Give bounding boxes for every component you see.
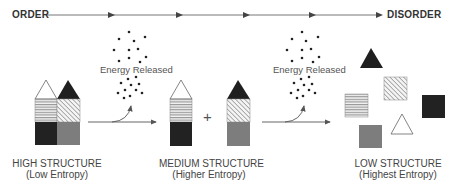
- axis-arrow-icon: [176, 12, 183, 18]
- striped-block: [170, 99, 192, 122]
- stage-title: LOW STRUCTURE: [348, 158, 448, 169]
- white-triangle-icon: [170, 80, 192, 99]
- low-structure-pieces: [345, 48, 445, 148]
- stage-subtitle: (Highest Entropy): [348, 169, 448, 180]
- white-triangle-icon: [35, 80, 57, 99]
- dark-square: [422, 95, 445, 118]
- stage-low-structure: LOW STRUCTURE (Highest Entropy): [348, 158, 448, 180]
- striped-block: [35, 99, 57, 122]
- stage-high-structure: HIGH STRUCTURE (Low Entropy): [7, 158, 107, 180]
- transition-arrow-1: [88, 106, 156, 122]
- high-structure-shape: [35, 80, 80, 145]
- hatched-block: [57, 99, 80, 122]
- order-disorder-axis: [47, 12, 383, 18]
- medium-structure-left-pencil: [170, 80, 192, 146]
- axis-arrow-icon: [309, 12, 316, 18]
- disorder-label: DISORDER: [387, 9, 441, 20]
- transition-arrow-2: [262, 106, 330, 122]
- stage-medium-structure: MEDIUM STRUCTURE (Higher Entropy): [159, 158, 259, 180]
- white-triangle-icon: [391, 114, 413, 134]
- dark-block: [35, 122, 57, 145]
- stage-subtitle: (Low Entropy): [7, 169, 107, 180]
- gray-block: [57, 122, 80, 145]
- black-triangle-icon: [57, 80, 80, 99]
- striped-square: [345, 94, 368, 117]
- medium-structure-right-pencil: [227, 80, 250, 146]
- stage-subtitle: (Higher Entropy): [159, 169, 259, 180]
- energy-released-label-1: Energy Released: [100, 64, 173, 75]
- hatched-square: [384, 77, 407, 100]
- axis-arrow-icon: [243, 12, 250, 18]
- black-triangle-icon: [227, 80, 250, 99]
- stage-title: HIGH STRUCTURE: [7, 158, 107, 169]
- gray-square: [359, 125, 382, 148]
- stage-title: MEDIUM STRUCTURE: [159, 158, 259, 169]
- black-triangle-icon: [360, 48, 383, 68]
- gray-block: [227, 122, 250, 146]
- axis-arrow-icon: [108, 12, 115, 18]
- hatched-block: [227, 99, 250, 122]
- axis-arrow-icon: [376, 12, 383, 18]
- energy-released-label-2: Energy Released: [273, 64, 346, 75]
- plus-operator: +: [203, 108, 212, 125]
- order-label: ORDER: [12, 9, 49, 20]
- dark-block: [170, 122, 192, 146]
